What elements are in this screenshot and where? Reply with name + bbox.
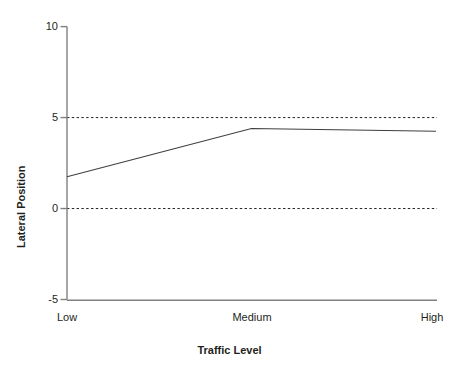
x-axis-title: Traffic Level [0,345,459,356]
y-tick-label-10: 10 [38,21,58,32]
x-tick-label-medium: Medium [222,312,282,323]
y-axis-title: Lateral Position [16,165,27,248]
x-tick-label-high: High [412,312,452,323]
y-tick-label-0: 0 [38,203,58,214]
y-tick-label-5: 5 [38,112,58,123]
chart-figure: 10 5 0 -5 Low Medium High Traffic Level … [0,0,459,375]
y-tick-label-minus5: -5 [34,294,58,305]
x-tick-label-low: Low [47,312,87,323]
